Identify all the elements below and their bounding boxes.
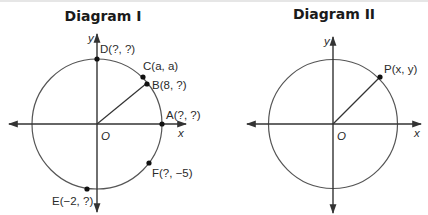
x-axis-label-1: x [177,127,185,139]
diagram-1: Diagram I y x O D(?, ?) C(a, a) B(8, ?) … [9,8,201,212]
point-a [159,121,164,126]
point-p [377,74,382,79]
radius-to-p [333,77,380,124]
diagrams-canvas: Diagram I y x O D(?, ?) C(a, a) B(8, ?) … [0,0,428,215]
point-e [84,186,89,191]
point-a-label: A(?, ?) [166,109,201,121]
point-p-label: P(x, y) [384,63,417,75]
diagram-2-title: Diagram II [293,6,375,22]
origin-label-1: O [101,130,110,142]
x-axis-label-2: x [413,127,421,139]
diagram-2: Diagram II y x O P(x, y) [247,6,421,213]
point-f [146,160,151,165]
point-e-label: E(−2, ?) [52,195,93,207]
radius-to-b [97,83,147,124]
y-axis-label-2: y [323,35,331,47]
point-d [94,56,99,61]
point-b [144,81,149,86]
y-axis-label-1: y [87,32,95,44]
point-d-label: D(?, ?) [100,43,135,55]
point-c-label: C(a, a) [143,60,178,72]
point-f-label: F(?, −5) [152,167,193,179]
origin-label-2: O [337,130,346,142]
point-c [140,74,145,79]
diagram-1-title: Diagram I [65,8,142,24]
point-b-label: B(8, ?) [152,79,187,91]
